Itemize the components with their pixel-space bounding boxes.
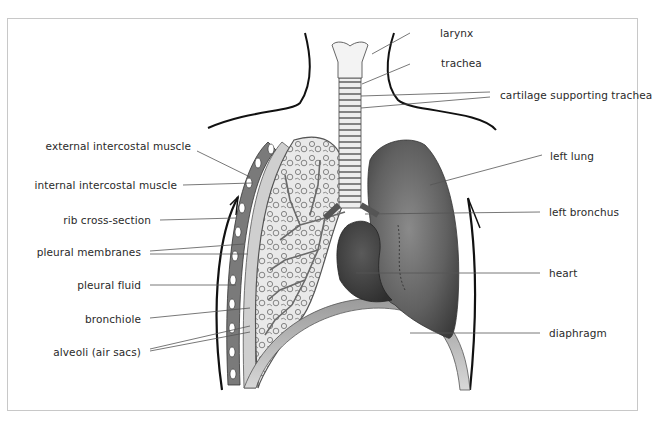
neck-outline-left (208, 33, 310, 128)
neck-outline-right (388, 33, 496, 130)
label-rib-cross-section: rib cross-section (63, 214, 151, 226)
trachea-rings (339, 78, 361, 208)
label-bronchiole: bronchiole (85, 313, 141, 325)
label-cartilage-supporting-trachea: cartilage supporting trachea (500, 89, 652, 101)
label-trachea: trachea (441, 57, 482, 69)
label-pleural-fluid: pleural fluid (77, 279, 141, 291)
label-diaphragm: diaphragm (549, 327, 607, 339)
chest-wall-right (468, 198, 475, 390)
label-larynx: larynx (440, 27, 473, 39)
label-pleural-membranes: pleural membranes (37, 246, 141, 258)
label-heart: heart (549, 267, 577, 279)
label-left-bronchus: left bronchus (549, 206, 619, 218)
label-alveoli: alveoli (air sacs) (53, 346, 141, 358)
label-external-intercostal-muscle: external intercostal muscle (46, 140, 191, 152)
larynx-shape (332, 42, 368, 78)
label-left-lung: left lung (550, 150, 594, 162)
label-internal-intercostal-muscle: internal intercostal muscle (34, 179, 177, 191)
